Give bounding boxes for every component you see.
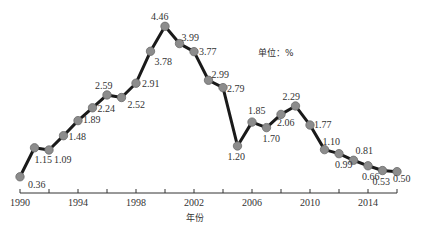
data-point-marker [74, 116, 82, 124]
data-point-marker [16, 173, 24, 181]
data-point-marker [146, 47, 154, 55]
data-value-label: 1.70 [263, 133, 281, 144]
data-value-label: 1.15 [35, 154, 53, 165]
data-point-marker [320, 145, 328, 153]
data-value-label: 0.50 [393, 173, 411, 184]
data-value-label: 2.59 [95, 80, 113, 91]
x-tick-label: 2002 [184, 197, 204, 208]
data-point-marker [335, 149, 343, 157]
data-value-label: 4.46 [151, 11, 169, 22]
data-point-marker [262, 123, 270, 131]
data-value-label: 2.52 [128, 99, 146, 110]
data-point-marker [88, 104, 96, 112]
data-value-label: 1.48 [69, 131, 87, 142]
data-point-marker [190, 47, 198, 55]
data-value-label: 2.24 [98, 103, 116, 114]
data-value-label: 2.99 [212, 69, 230, 80]
data-value-label: 3.77 [199, 46, 217, 57]
data-value-label: 3.78 [155, 56, 173, 67]
data-value-label: 2.91 [142, 78, 160, 89]
data-value-label: 1.09 [54, 154, 72, 165]
data-value-label: 1.89 [83, 114, 101, 125]
x-tick-label: 2010 [300, 197, 320, 208]
data-point-marker [219, 83, 227, 91]
data-point-marker [103, 91, 111, 99]
data-point-marker [364, 162, 372, 170]
data-value-label: 1.10 [323, 136, 341, 147]
data-point-marker [132, 79, 140, 87]
data-point-marker [233, 142, 241, 150]
data-value-label: 1.20 [228, 151, 246, 162]
data-point-marker [117, 93, 125, 101]
data-value-label: 1.77 [314, 119, 332, 130]
x-tick-label: 1990 [10, 197, 30, 208]
data-point-marker [291, 102, 299, 110]
data-point-marker [59, 131, 67, 139]
data-value-label: 0.36 [28, 179, 46, 190]
data-point-marker [378, 166, 386, 174]
line-chart: 1990199419982002200620102014 0.361.151.0… [0, 0, 422, 231]
x-axis-title: 年份 [186, 212, 204, 223]
data-value-label: 2.06 [277, 117, 295, 128]
x-tick-label: 1994 [68, 197, 88, 208]
unit-label: 单位：% [258, 47, 294, 58]
data-value-label: 3.99 [182, 32, 200, 43]
data-value-label: 0.53 [373, 176, 391, 187]
x-tick-label: 2006 [242, 197, 262, 208]
data-point-marker [306, 121, 314, 129]
data-value-label: 0.99 [335, 159, 353, 170]
data-value-label: 2.29 [283, 91, 301, 102]
x-axis: 1990199419982002200620102014 [10, 189, 397, 208]
data-value-label: 2.79 [227, 83, 245, 94]
data-point-marker [161, 22, 169, 30]
data-value-label: 1.85 [248, 105, 266, 116]
x-tick-label: 2014 [358, 197, 378, 208]
data-point-marker [248, 118, 256, 126]
data-value-label: 0.81 [356, 145, 374, 156]
data-point-marker [30, 144, 38, 152]
x-tick-label: 1998 [126, 197, 146, 208]
